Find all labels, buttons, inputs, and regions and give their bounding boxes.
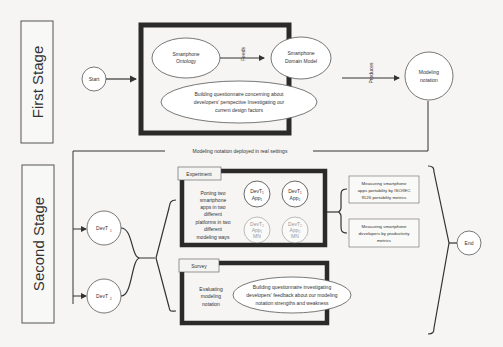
experiment-label: Experiment: [178, 167, 221, 180]
svg-text:Measuring smartphone: Measuring smartphone: [362, 224, 407, 229]
svg-text:platforms in two: platforms in two: [195, 219, 230, 225]
svg-text:Survey: Survey: [191, 263, 207, 269]
svg-text:developers' perspective Invest: developers' perspective Investigating ou…: [194, 99, 285, 105]
devt-merge-connector: [121, 228, 155, 296]
svg-text:different: different: [204, 226, 223, 232]
deployed-label: Modeling notation deployed in real setti…: [193, 148, 288, 154]
svg-text:Smartphone: Smartphone: [287, 50, 314, 56]
svg-text:developers' feedback about our: developers' feedback about our modeling: [246, 292, 338, 298]
metric-productivity: Measuring smartphone developers by produ…: [349, 219, 419, 247]
svg-text:notation: notation: [420, 77, 438, 83]
feeds-label: Feeds: [240, 47, 246, 61]
app-node-devt1-app2: DevT₁ App₂: [282, 181, 308, 207]
svg-text:9126 portability metrics: 9126 portability metrics: [361, 195, 407, 200]
start-node: Start: [82, 67, 106, 91]
svg-text:Domain Model: Domain Model: [285, 58, 317, 64]
svg-text:notation: notation: [202, 301, 220, 307]
modeling-notation-node: Modeling notation: [405, 52, 453, 100]
svg-text:Evaluating: Evaluating: [199, 286, 223, 292]
produces-label: Produces: [368, 62, 374, 84]
svg-text:MN: MN: [253, 233, 261, 239]
survey-description: Evaluating modeling notation: [199, 286, 223, 307]
svg-text:MN: MN: [291, 233, 299, 239]
svg-text:apps portability by ISO/IEC: apps portability by ISO/IEC: [358, 188, 411, 193]
svg-text:Building questionnaire concern: Building questionnaire concerning about: [195, 91, 285, 97]
svg-text:DevT₁: DevT₁: [288, 188, 302, 194]
svg-text:notation strengths and weaknes: notation strengths and weakness: [255, 300, 329, 306]
svg-text:Smartphone: Smartphone: [172, 51, 199, 57]
svg-text:Measuring smartphone: Measuring smartphone: [362, 181, 407, 186]
survey-label: Survey: [179, 259, 219, 272]
svg-text:Second Stage: Second Stage: [30, 197, 47, 291]
svg-text:developers by productivity: developers by productivity: [359, 231, 411, 236]
svg-text:Modeling: Modeling: [419, 69, 440, 75]
questionnaire-design-factors: Building questionnaire concerning about …: [161, 81, 317, 123]
svg-text:Experiment: Experiment: [186, 171, 212, 177]
svg-text:App₁: App₁: [252, 195, 263, 201]
svg-text:First Stage: First Stage: [29, 46, 46, 119]
svg-text:End: End: [465, 240, 474, 246]
svg-text:App₂: App₂: [290, 195, 301, 201]
second-stage-label: Second Stage: [22, 165, 54, 323]
end-node: End: [457, 231, 481, 255]
metric-portability: Measuring smartphone apps portability by…: [349, 176, 419, 203]
svg-text:Start: Start: [89, 76, 100, 82]
experiment-description: Porting two smartphone apps in two diffe…: [195, 190, 230, 240]
svg-text:modeling: modeling: [201, 293, 222, 299]
domain-model-node: Smartphone Domain Model: [271, 37, 331, 79]
svg-text:metrics: metrics: [377, 238, 392, 243]
first-stage-label: First Stage: [21, 21, 53, 143]
svg-text:current design factors: current design factors: [215, 107, 264, 113]
app-node-devt1-app1: DevT₁ App₁: [244, 181, 270, 207]
svg-text:DevT: DevT: [96, 293, 108, 299]
right-brace: [428, 166, 449, 334]
survey-questionnaire: Building questionnaire investigating dev…: [233, 277, 351, 313]
svg-text:Ontology: Ontology: [176, 58, 197, 64]
metrics-brace: [338, 189, 347, 233]
svg-text:Building questionnaire investi: Building questionnaire investigating: [253, 284, 332, 290]
devt2-node: DevT 2: [87, 279, 121, 313]
research-method-diagram: First Stage Second Stage Start Smartphon…: [0, 0, 503, 347]
left-brace: [156, 200, 176, 311]
ontology-node: Smartphone Ontology: [152, 38, 220, 78]
svg-text:DevT₁: DevT₁: [250, 188, 264, 194]
svg-text:different: different: [204, 211, 223, 217]
app-node-devt2-app2-mn: DevT₂ App₂ MN: [282, 217, 308, 243]
devt1-node: DevT 1: [87, 211, 121, 245]
svg-text:Porting two: Porting two: [200, 190, 225, 196]
svg-text:smartphone: smartphone: [200, 197, 227, 203]
app-node-devt2-app1-mn: DevT₂ App₁ MN: [244, 217, 270, 243]
svg-text:DevT: DevT: [96, 225, 108, 231]
svg-text:apps in two: apps in two: [200, 204, 226, 210]
svg-text:modeling ways: modeling ways: [196, 234, 230, 240]
